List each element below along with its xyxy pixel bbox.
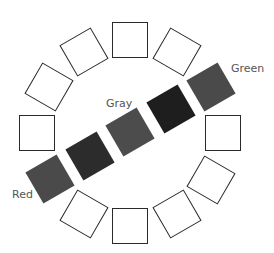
diagonal-square-mid1 (65, 131, 114, 180)
ring-square-270 (112, 208, 148, 244)
ring-square-330 (186, 155, 235, 204)
ring-square-180 (19, 115, 55, 151)
color-wheel-diagram (0, 0, 274, 253)
diagonal-square-mid2 (146, 84, 195, 133)
ring-square-60 (152, 28, 201, 77)
ring-square-150 (25, 62, 74, 111)
ring-square-0 (205, 115, 241, 151)
ring-square-90 (112, 22, 148, 58)
label-green: Green (231, 63, 264, 74)
label-red: Red (12, 189, 33, 200)
ring-square-120 (59, 28, 108, 77)
ring-square-300 (152, 189, 201, 238)
ring-square-240 (59, 189, 108, 238)
diagonal-square-gray (105, 107, 154, 156)
label-gray: Gray (106, 98, 132, 109)
diagonal-square-green (186, 62, 235, 111)
